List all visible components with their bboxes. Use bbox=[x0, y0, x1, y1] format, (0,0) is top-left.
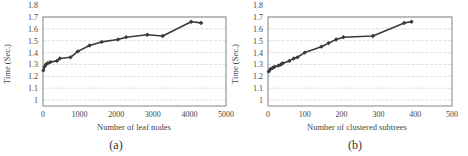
chart-panel-b: 11.11.21.31.41.51.61.71.8010020030040050… bbox=[253, 1, 458, 119]
y-tick-label: 1.2 bbox=[28, 72, 38, 81]
y-tick-label: 1 bbox=[34, 96, 38, 105]
x-tick-label: 100 bbox=[299, 110, 311, 119]
y-tick-label: 1.7 bbox=[28, 13, 38, 22]
y-axis-label-a: Time (Sec.) bbox=[2, 44, 12, 84]
data-point-marker bbox=[409, 20, 413, 24]
data-point-marker bbox=[124, 35, 128, 39]
y-tick-label: 1.1 bbox=[253, 84, 263, 93]
chart-panel-a: 11.11.21.31.41.51.61.71.8010002000300040… bbox=[28, 1, 234, 119]
y-tick-label: 1.4 bbox=[253, 49, 263, 58]
data-point-marker bbox=[199, 21, 203, 25]
data-point-marker bbox=[341, 35, 345, 39]
y-tick-label: 1.5 bbox=[253, 37, 263, 46]
y-tick-label: 1.8 bbox=[28, 1, 38, 10]
x-tick-label: 0 bbox=[266, 110, 270, 119]
x-tick-label: 500 bbox=[446, 110, 458, 119]
x-axis-label-b: Number of clustered subtrees bbox=[307, 122, 407, 132]
y-tick-label: 1.6 bbox=[28, 25, 38, 34]
y-tick-label: 1.4 bbox=[28, 49, 38, 58]
y-tick-label: 1.2 bbox=[253, 72, 263, 81]
caption-a: (a) bbox=[109, 138, 122, 152]
x-tick-label: 200 bbox=[336, 110, 348, 119]
y-axis-label-b: Time (Sec.) bbox=[230, 44, 240, 84]
x-tick-label: 1000 bbox=[72, 110, 88, 119]
x-tick-label: 400 bbox=[409, 110, 421, 119]
x-tick-label: 2000 bbox=[108, 110, 124, 119]
y-tick-label: 1.5 bbox=[28, 37, 38, 46]
y-tick-label: 1.6 bbox=[253, 25, 263, 34]
y-tick-label: 1.3 bbox=[28, 60, 38, 69]
data-point-marker bbox=[402, 21, 406, 25]
y-tick-label: 1 bbox=[259, 96, 263, 105]
x-tick-label: 5000 bbox=[218, 110, 234, 119]
y-tick-label: 1.3 bbox=[253, 60, 263, 69]
data-point-marker bbox=[371, 34, 375, 38]
x-tick-label: 4000 bbox=[181, 110, 197, 119]
plot-area bbox=[43, 17, 226, 106]
data-point-marker bbox=[41, 68, 45, 72]
y-tick-label: 1.7 bbox=[253, 13, 263, 22]
plot-area bbox=[268, 17, 452, 106]
data-point-marker bbox=[145, 33, 149, 37]
y-tick-label: 1.1 bbox=[28, 84, 38, 93]
x-tick-label: 300 bbox=[372, 110, 384, 119]
y-tick-label: 1.8 bbox=[253, 1, 263, 10]
caption-b: (b) bbox=[348, 138, 362, 152]
x-tick-label: 0 bbox=[41, 110, 45, 119]
figure: 11.11.21.31.41.51.61.71.8010002000300040… bbox=[0, 0, 468, 156]
x-tick-label: 3000 bbox=[145, 110, 161, 119]
x-axis-label-a: Number of leaf nodes bbox=[97, 122, 171, 132]
